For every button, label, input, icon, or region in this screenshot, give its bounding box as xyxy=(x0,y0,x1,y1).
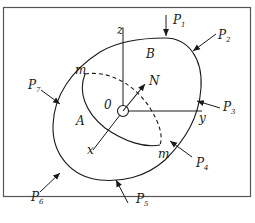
force-label-p1: P1 xyxy=(172,13,186,29)
force-label-p7: P7 xyxy=(27,78,41,94)
origin-label: 0 xyxy=(104,98,112,112)
force-label-p5: P5 xyxy=(135,192,149,208)
force-label-p6: P6 xyxy=(30,190,44,206)
section-point-m-upper: m xyxy=(75,63,86,77)
force-arrow-p7 xyxy=(41,90,60,104)
force-arrow-p2 xyxy=(193,34,216,51)
figure: z y x 0 N B A m m P1 P2 P3 P4 P5 P6 P7 xyxy=(0,0,255,223)
region-a-label: A xyxy=(75,114,85,128)
body-outline xyxy=(53,38,201,180)
section-point-m-lower: m xyxy=(158,147,169,161)
force-arrow-p6 xyxy=(40,173,60,192)
force-arrow-p4 xyxy=(170,141,192,157)
body-diagram: z y x 0 N B A m m P1 P2 P3 P4 P5 P6 P7 xyxy=(0,0,255,223)
z-axis-label: z xyxy=(116,23,124,37)
force-label-p3: P3 xyxy=(222,100,236,116)
x-axis-label: x xyxy=(87,143,94,157)
force-arrow-p3 xyxy=(197,101,220,108)
normal-label: N xyxy=(148,74,160,88)
force-label-p4: P4 xyxy=(195,156,209,172)
force-arrow-p5 xyxy=(116,180,128,203)
force-label-p2: P2 xyxy=(217,28,231,44)
y-axis-label: y xyxy=(198,111,206,125)
region-b-label: B xyxy=(145,47,155,61)
